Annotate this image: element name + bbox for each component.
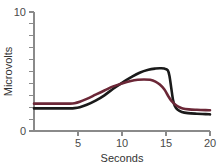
- x-tick-label: 10: [116, 137, 128, 149]
- x-tick-label: 20: [204, 137, 216, 149]
- x-axis-title: Seconds: [101, 152, 144, 164]
- data-series-group: [34, 68, 210, 114]
- y-tick-label-bottom: 0: [20, 125, 26, 137]
- y-axis-title: Microvolts: [2, 46, 14, 96]
- y-tick-label-top: 10: [14, 6, 26, 18]
- x-tick-label: 15: [160, 137, 172, 149]
- line-chart: 1005101520SecondsMicrovolts: [0, 0, 219, 167]
- x-tick-label: 5: [75, 137, 81, 149]
- chart-figure: 1005101520SecondsMicrovolts: [0, 0, 219, 167]
- series-line-maroon-trace: [34, 79, 210, 110]
- axes: [29, 12, 210, 136]
